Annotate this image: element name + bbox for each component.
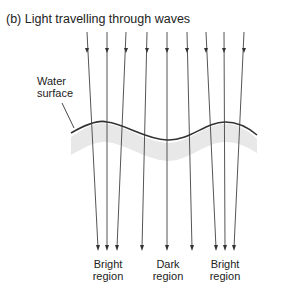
water-surface-leader (62, 103, 74, 128)
water-band (71, 123, 257, 161)
bright-left-line1: Bright (86, 258, 130, 270)
bright-right-line1: Bright (203, 258, 247, 270)
bright-region-right-label: Bright region (203, 258, 247, 282)
water-surface-label-line2: surface (37, 87, 73, 99)
water-surface-label-line1: Water (37, 75, 73, 87)
water-surface-label: Water surface (37, 75, 73, 99)
bright-right-line2: region (203, 270, 247, 282)
dark-line1: Dark (146, 258, 190, 270)
diagram-canvas (0, 0, 295, 288)
arrowhead-icons-bottom (96, 245, 236, 251)
bright-left-line2: region (86, 270, 130, 282)
arrowhead-icons-top (85, 48, 246, 53)
dark-line2: region (146, 270, 190, 282)
dark-region-label: Dark region (146, 258, 190, 282)
bright-region-left-label: Bright region (86, 258, 130, 282)
